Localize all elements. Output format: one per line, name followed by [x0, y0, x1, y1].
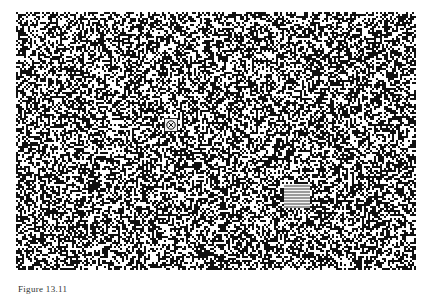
striped-texture-patch	[284, 184, 310, 208]
circled-x-icon	[166, 120, 176, 130]
target-marker	[164, 118, 178, 132]
noise-figure	[16, 12, 416, 270]
random-dot-field	[16, 12, 416, 270]
figure-caption: Figure 13.11	[18, 284, 67, 294]
